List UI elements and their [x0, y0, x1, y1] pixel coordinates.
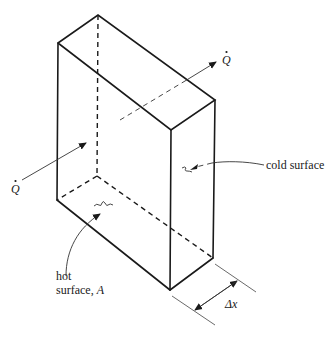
thickness-label: Δx	[224, 297, 238, 311]
cold-surface-pointer	[182, 162, 264, 172]
svg-text:Q: Q	[222, 53, 231, 67]
slab-conduction-diagram: Q Q cold surface hot surface, A Δx	[0, 0, 326, 341]
hot-surface-label: hot surface, A	[56, 269, 105, 297]
heat-flow-in-label: Q	[11, 180, 20, 196]
slab-visible-edges	[57, 15, 215, 290]
heat-flow-out-label: Q	[222, 51, 231, 67]
svg-text:Q: Q	[11, 182, 20, 196]
svg-text:surface, A: surface, A	[56, 283, 105, 297]
thickness-dimension	[172, 264, 256, 325]
heat-flow-in-arrow	[22, 143, 86, 180]
svg-text:hot: hot	[56, 269, 72, 283]
cold-surface-label: cold surface	[266, 158, 324, 172]
slab-hidden-edges	[57, 15, 213, 258]
